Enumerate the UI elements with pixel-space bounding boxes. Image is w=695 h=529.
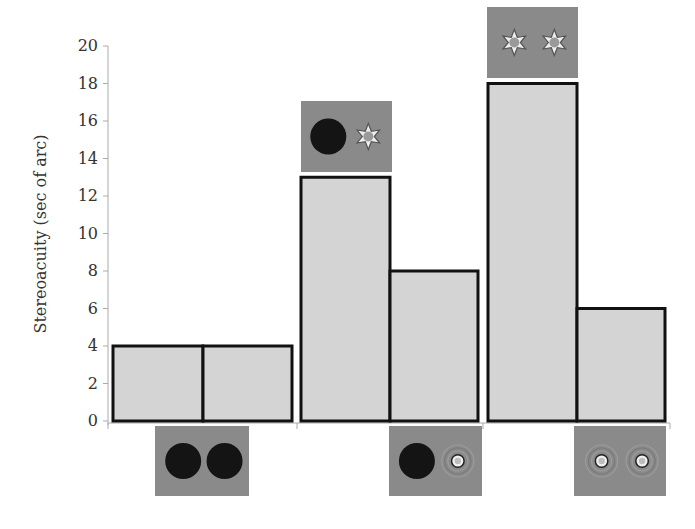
top-stimulus-panel <box>487 7 578 78</box>
y-tick-label: 0 <box>88 411 98 430</box>
bar <box>203 346 292 421</box>
y-axis: 02468101214161820 <box>78 36 108 430</box>
top-stimulus-panel <box>301 101 392 172</box>
bar <box>113 346 203 421</box>
dark-disk-icon <box>310 119 346 155</box>
dark-disk-icon <box>207 443 243 479</box>
bottom-stimulus-panel <box>574 426 666 496</box>
y-tick-label: 10 <box>78 224 98 243</box>
bar <box>301 177 390 421</box>
y-tick-label: 20 <box>78 36 98 55</box>
y-tick-label: 16 <box>78 111 98 130</box>
y-tick-label: 6 <box>88 299 98 318</box>
y-tick-label: 4 <box>88 336 98 355</box>
y-tick-label: 18 <box>78 74 98 93</box>
bar <box>390 271 478 421</box>
bar <box>488 84 577 422</box>
bottom-stimulus-panel <box>155 426 249 496</box>
y-tick-label: 8 <box>88 261 98 280</box>
y-tick-label: 14 <box>78 149 98 168</box>
dark-disk-icon <box>165 443 201 479</box>
y-axis-label: Stereoacuity (sec of arc) <box>31 134 50 333</box>
bottom-stimulus-panel <box>389 426 482 496</box>
y-tick-label: 2 <box>88 374 98 393</box>
y-tick-label: 12 <box>78 186 98 205</box>
dark-disk-icon <box>399 443 435 479</box>
stereoacuity-bar-chart: Stereoacuity (sec of arc) 02468101214161… <box>0 0 695 529</box>
bar <box>577 309 665 422</box>
